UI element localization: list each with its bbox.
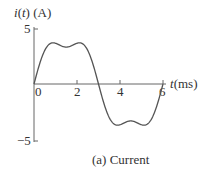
y-tick-label-neg5: −5 — [17, 133, 31, 148]
current-chart: 5 −5 0 2 4 6 i(t) (A) t(ms) (a) Current — [0, 0, 205, 175]
y-tick-label-5: 5 — [24, 21, 31, 36]
x-tick-label-0: 0 — [35, 84, 42, 99]
y-axis-label: i(t) (A) — [14, 5, 51, 20]
x-tick-label-4: 4 — [117, 84, 124, 99]
chart-caption: (a) Current — [92, 152, 150, 167]
x-tick-label-2: 2 — [74, 84, 81, 99]
x-axis-label: t(ms) — [170, 76, 197, 91]
